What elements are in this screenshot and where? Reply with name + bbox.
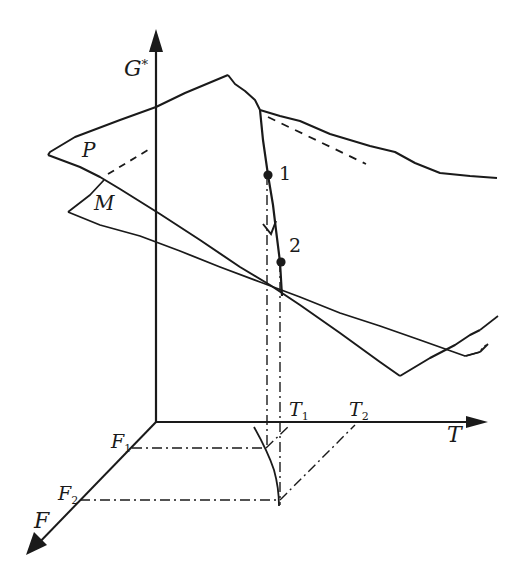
f1-base: F [111, 430, 124, 452]
surface-m-label: M [94, 193, 114, 213]
f2-label: F2 [58, 484, 78, 506]
surface-m-text: M [94, 191, 114, 215]
point-2-label: 2 [289, 236, 301, 255]
t2-base: T [349, 398, 362, 420]
t1-label: T1 [289, 400, 309, 422]
transition-path [260, 110, 282, 296]
t-axis-label: T [447, 424, 462, 446]
f2-sub: 2 [71, 494, 78, 507]
t-axis [156, 416, 488, 428]
t-axis-text: T [447, 422, 462, 447]
surface-p-label: P [82, 140, 95, 160]
point-2-marker [276, 257, 285, 266]
diagram-canvas: G* T F P M 1 2 T1 T2 F1 F2 [0, 0, 522, 577]
g-axis-superscript: * [142, 57, 149, 72]
f-axis-label: F [34, 510, 49, 532]
t1-base: T [289, 398, 302, 420]
surface-m [68, 180, 488, 356]
diagram-drawing [0, 0, 522, 577]
projection-lines [80, 175, 355, 505]
g-axis-base: G [124, 56, 142, 81]
point-1-label: 1 [279, 164, 291, 183]
point-2-text: 2 [289, 234, 301, 256]
g-star-axis-label: G* [124, 58, 148, 80]
g-star-axis [149, 29, 163, 422]
f1-label: F1 [111, 432, 131, 454]
f-axis-text: F [34, 508, 49, 533]
f1-sub: 1 [124, 442, 131, 455]
t2-label: T2 [349, 400, 369, 422]
f-axis [26, 422, 156, 555]
surface-p [48, 75, 498, 376]
t2-sub: 2 [362, 410, 369, 423]
point-1-text: 1 [279, 162, 291, 184]
t1-sub: 1 [302, 410, 309, 423]
surface-p-text: P [82, 138, 95, 162]
point-1-marker [263, 170, 272, 179]
f2-base: F [58, 482, 71, 504]
